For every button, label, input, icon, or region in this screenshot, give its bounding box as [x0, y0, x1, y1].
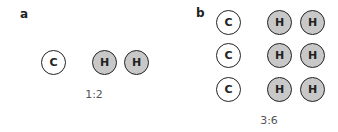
panel-label-a: a: [20, 7, 28, 21]
hydrogen-atom: H: [267, 43, 292, 68]
hydrogen-atom: H: [124, 50, 149, 75]
ratio-label-b: 3:6: [260, 114, 278, 127]
carbon-atom: C: [216, 43, 241, 68]
hydrogen-atom: H: [92, 50, 117, 75]
hydrogen-atom: H: [300, 77, 325, 102]
hydrogen-atom: H: [267, 77, 292, 102]
carbon-atom: C: [41, 50, 66, 75]
hydrogen-atom: H: [300, 10, 325, 35]
panel-label-b: b: [196, 6, 205, 20]
hydrogen-atom: H: [267, 10, 292, 35]
carbon-atom: C: [216, 10, 241, 35]
hydrogen-atom: H: [300, 43, 325, 68]
ratio-label-a: 1:2: [85, 88, 103, 101]
carbon-atom: C: [216, 77, 241, 102]
